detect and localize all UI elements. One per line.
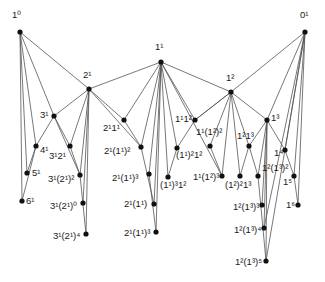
edge [54,116,70,146]
node-label-n12sq13: (1²)²1³ [225,180,251,190]
edge [249,146,258,176]
node-label-n11sq12: (1¹)²1² [176,150,202,160]
node-label-n1112sq: 1¹(1²)² [196,127,222,137]
edge [141,62,161,147]
node-label-n01: 0¹ [300,10,308,20]
node-n51 [24,170,29,175]
edge [267,120,285,150]
edge [266,32,305,261]
node-label-n1213q: 1²(1³)⁴ [234,225,261,235]
node-label-n2111sq: 2¹(1¹)² [104,146,130,156]
node-n1213f [263,258,268,263]
node-n3121sq [77,172,82,177]
node-label-n31: 3¹ [40,110,48,120]
node-label-n1213sq: 1²(1³)² [262,163,288,173]
node-n12sq13 [237,173,242,178]
edge [240,146,249,176]
node-label-n12: 1² [226,73,234,83]
node-label-n14: 1⁴ [274,148,283,158]
node-label-n11cu12: (1¹)³1² [160,180,186,190]
edge [54,116,80,175]
node-n13 [264,117,269,122]
edge [36,116,54,146]
node-n1213cu [259,202,264,207]
node-label-n1213cu: 1²(1³)³ [233,202,259,212]
node-label-n10: 1⁰ [12,10,21,20]
node-label-n51: 5¹ [32,168,40,178]
node-label-n3121z: 3¹(2¹)⁰ [50,201,77,211]
node-label-n2111cu2: 2¹(1¹)³ [124,228,150,238]
edge [231,92,267,120]
node-n1112cu [219,173,224,178]
edge [161,62,231,92]
node-n2111 [151,201,156,206]
node-label-n3121sq: 3¹(2¹)² [48,174,74,184]
node-n61 [19,198,24,203]
node-n21 [86,86,91,91]
node-label-n16: 1⁶ [286,200,295,210]
node-n2111cu [146,171,151,176]
node-label-n1112: 1¹1² [175,114,192,124]
edge [20,32,36,146]
node-n1213q [261,225,266,230]
node-label-n3121: 3¹2¹ [49,151,66,161]
node-label-n1213f: 1²(1³)⁵ [235,257,262,267]
node-n16 [295,202,300,207]
node-label-n2111: 2¹(1¹) [124,199,147,209]
node-n41 [33,143,38,148]
node-label-n15: 1⁵ [283,177,292,187]
node-label-n1112cu: 1¹(1²)³ [193,172,219,182]
node-n12 [228,89,233,94]
edge [298,32,305,205]
node-n3121z [80,200,85,205]
node-n1112sq [207,143,212,148]
edge [20,32,89,89]
node-label-n2111cu: 2¹(1¹)³ [112,173,138,183]
node-n1112 [192,117,197,122]
node-label-n3121q: 3¹(2¹)⁴ [53,231,80,241]
node-label-n21: 2¹ [83,70,91,80]
node-label-n41: 4¹ [40,145,48,155]
node-label-n61: 6¹ [26,196,34,206]
edge [89,62,161,89]
node-n2111 [121,117,126,122]
node-label-n13: 1³ [271,113,279,123]
node-n2111cu2 [153,229,158,234]
node-n3121q [83,231,88,236]
edge [20,32,54,116]
node-n3121 [67,143,72,148]
node-n10 [17,29,22,34]
node-n31 [51,113,56,118]
edge [89,89,141,147]
node-label-n2111: 2¹1¹ [103,123,120,133]
node-n01 [302,29,307,34]
node-n11 [158,59,163,64]
edge [177,120,195,148]
edge [54,89,89,116]
node-n1213sq [255,173,260,178]
edge [264,32,305,228]
edge [89,89,124,120]
node-n2111sq [138,144,143,149]
lattice-diagram: 1⁰0¹1¹2¹1²1³3¹4¹3¹2¹5¹6¹3¹(2¹)²3¹(2¹)⁰3¹… [0,0,325,282]
edge [231,32,305,92]
edge [70,146,80,175]
node-n1213 [246,143,251,148]
edge [124,120,141,147]
node-label-n1213: 1²1³ [237,131,254,141]
node-label-n11: 1¹ [155,42,163,52]
